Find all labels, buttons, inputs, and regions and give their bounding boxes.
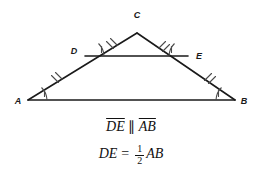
vertex-label-A: A	[14, 96, 22, 106]
segment-CB	[137, 33, 235, 100]
fraction-numerator: 1	[135, 144, 144, 154]
segment-AC	[28, 33, 137, 100]
vertex-label-B: B	[241, 96, 248, 106]
caption-segment-ab: AB	[138, 119, 156, 135]
tick-marks-DC	[107, 39, 118, 49]
triangle-midsegment-figure: A B C D E DE∥AB DE=12AB	[0, 0, 262, 172]
vertex-label-E: E	[196, 51, 203, 61]
tick-marks-AD	[52, 73, 63, 83]
caption-parallel-statement: DE∥AB	[0, 119, 262, 135]
angle-mark-E	[169, 44, 175, 57]
fraction-one-half: 12	[135, 144, 144, 166]
geometry-diagram: A B C D E	[0, 0, 262, 118]
vertex-label-D: D	[71, 46, 78, 56]
parallel-symbol: ∥	[125, 119, 138, 135]
length-left-term: DE	[99, 146, 118, 162]
vertex-label-C: C	[134, 10, 141, 20]
length-right-term: AB	[146, 146, 163, 162]
caption-length-statement: DE=12AB	[0, 144, 262, 166]
caption-segment-de: DE	[106, 119, 126, 135]
tick-marks-EB	[205, 74, 216, 84]
tick-marks-CE	[159, 42, 170, 52]
equals-symbol: =	[117, 146, 133, 162]
fraction-denominator: 2	[135, 156, 144, 166]
